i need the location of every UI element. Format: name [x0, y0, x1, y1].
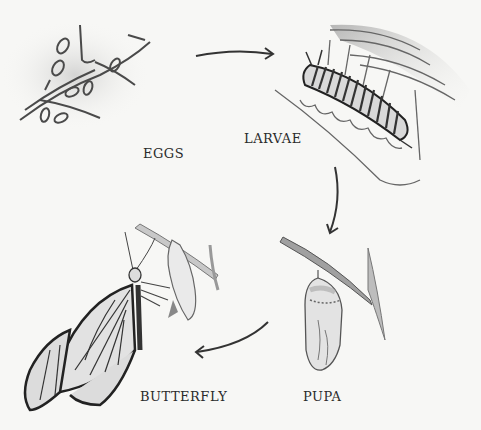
life-cycle-diagram: EGGS LARVAE PUPA BUTTERFLY — [0, 0, 481, 430]
diagram-illustrations — [0, 0, 481, 430]
pupa-illustration — [280, 237, 385, 370]
stage-label-eggs: EGGS — [143, 146, 184, 161]
butterfly-illustration — [25, 224, 218, 410]
arrow-pupa-to-butterfly — [197, 322, 268, 352]
arrow-larvae-to-pupa — [330, 167, 338, 232]
eggs-illustration — [0, 20, 150, 130]
stage-label-pupa: PUPA — [303, 389, 341, 404]
larvae-illustration — [275, 25, 470, 185]
arrow-eggs-to-larvae — [196, 51, 272, 56]
stage-label-larvae: LARVAE — [244, 131, 302, 146]
stage-label-butterfly: BUTTERFLY — [140, 389, 227, 404]
